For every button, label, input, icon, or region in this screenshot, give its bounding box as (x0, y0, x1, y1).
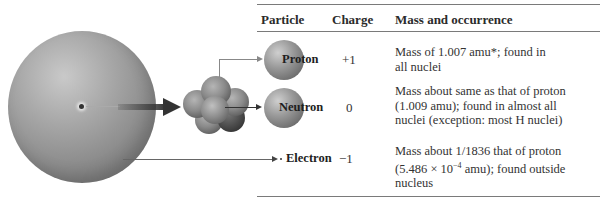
proton-connector-vertical (219, 59, 220, 77)
particle-name-proton: Proton (282, 52, 319, 67)
charge-neutron: 0 (346, 100, 353, 116)
mass-neutron: Mass about same as that of proton (1.009… (395, 84, 601, 128)
mass-proton-line: all nuclei (395, 60, 601, 75)
mass-neutron-line: Mass about same as that of proton (395, 84, 601, 99)
proton-arrow-icon (257, 56, 263, 62)
mass-proton: Mass of 1.007 amu*; found in all nuclei (395, 45, 601, 74)
mass-neutron-line: nuclei (exception: most H nuclei) (395, 113, 601, 128)
proton-connector-horizontal (219, 59, 258, 60)
electron-arrow-icon (272, 156, 278, 162)
mass-electron-line: (5.486 × 10−4 amu); found outside (395, 159, 601, 177)
table-top-rule (257, 4, 600, 5)
particle-name-neutron: Neutron (279, 100, 323, 115)
table-header-rule (257, 31, 600, 32)
charge-electron: −1 (339, 151, 353, 167)
nucleus-dot (79, 104, 84, 109)
mass-proton-line: Mass of 1.007 amu*; found in (395, 45, 601, 60)
zoom-arrow-shaft (118, 104, 166, 110)
mass-electron-line: nucleus (395, 176, 601, 191)
zoom-arrow-head-icon (163, 98, 181, 116)
neutron-connector (225, 107, 257, 108)
header-charge: Charge (332, 12, 373, 28)
table-bottom-rule (257, 196, 600, 197)
header-particle: Particle (261, 12, 304, 28)
neutron-arrow-icon (256, 104, 262, 110)
electron-dot (280, 158, 282, 160)
charge-proton: +1 (342, 52, 356, 68)
mass-neutron-line: (1.009 amu); found in almost all (395, 99, 601, 114)
electron-connector (123, 159, 273, 160)
mass-electron-line: Mass about 1/1836 that of proton (395, 144, 601, 159)
nucleus-pointer-line (86, 106, 120, 107)
header-mass: Mass and occurrence (395, 12, 512, 28)
particle-name-electron: Electron (286, 151, 332, 166)
mass-electron: Mass about 1/1836 that of proton (5.486 … (395, 144, 601, 191)
